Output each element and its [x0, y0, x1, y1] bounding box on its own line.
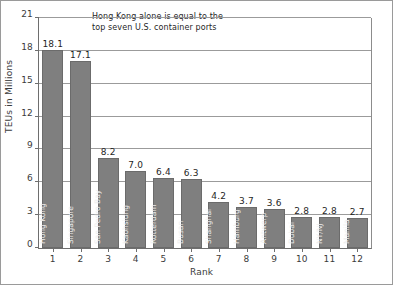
bar: Manila	[347, 218, 368, 248]
y-tick-label: 12	[21, 108, 33, 118]
x-tick-mark	[164, 248, 165, 252]
bar-category-label: Hamburg	[232, 209, 242, 244]
x-tick-label: 10	[296, 254, 308, 264]
y-tick-label: 9	[27, 140, 33, 150]
x-tick-label: 7	[216, 254, 222, 264]
bar: Rotterdam	[153, 178, 174, 248]
x-tick-label: 4	[133, 254, 139, 264]
x-tick-label: 5	[161, 254, 167, 264]
y-tick-mark	[35, 148, 39, 149]
y-tick-mark	[35, 17, 39, 18]
x-tick-label: 2	[78, 254, 84, 264]
y-tick-label: 6	[27, 173, 33, 183]
bar: San Pedro Bay	[98, 158, 119, 248]
x-tick-mark	[108, 248, 109, 252]
y-tick-label: 3	[27, 206, 33, 216]
bar-value-label: 18.1	[33, 39, 73, 49]
bar: NY/NJ	[319, 217, 340, 248]
bar-value-label: 6.3	[171, 168, 211, 178]
x-tick-label: 9	[271, 254, 277, 264]
y-tick-label: 21	[21, 9, 33, 19]
x-tick-mark	[136, 248, 137, 252]
x-tick-mark	[330, 248, 331, 252]
bar-category-label: Antwerp	[259, 213, 269, 244]
bar-category-label: Hong Kong	[38, 203, 48, 244]
x-tick-mark	[219, 248, 220, 252]
bar-value-label: 17.1	[61, 50, 101, 60]
bar: Hong Kong	[42, 50, 63, 248]
plot-area: 036912151821 Hong Kong18.1Singapore17.1S…	[38, 18, 372, 249]
x-tick-label: 1	[50, 254, 56, 264]
x-tick-label: 6	[188, 254, 194, 264]
bar-category-label: Singapore	[66, 206, 76, 244]
y-tick-mark	[35, 116, 39, 117]
y-tick-mark	[35, 83, 39, 84]
x-tick-label: 8	[244, 254, 250, 264]
gridline	[39, 17, 371, 18]
bar: Kaohsiung	[125, 171, 146, 248]
bar-value-label: 2.7	[337, 207, 377, 217]
bar-category-label: Manila	[342, 219, 352, 244]
bar-category-label: Rotterdam	[149, 204, 159, 244]
x-tick-mark	[247, 248, 248, 252]
y-axis-title: TEUs in Millions	[4, 60, 14, 133]
bar: Dubai	[291, 217, 312, 248]
x-tick-label: 3	[105, 254, 111, 264]
bar: Hamburg	[236, 207, 257, 248]
y-tick-mark	[35, 50, 39, 51]
bar-category-label: San Pedro Bay	[93, 190, 103, 244]
y-tick-mark	[35, 181, 39, 182]
x-axis-title: Rank	[190, 267, 213, 277]
bar: Shanghai	[208, 202, 229, 248]
x-tick-mark	[81, 248, 82, 252]
y-tick-label: 18	[21, 42, 33, 52]
y-tick-label: 0	[27, 239, 33, 249]
bar-value-label: 8.2	[88, 147, 128, 157]
bar: Busan	[181, 179, 202, 248]
y-tick-label: 15	[21, 75, 33, 85]
y-tick-mark	[35, 247, 39, 248]
bar-category-label: Dubai	[287, 222, 297, 244]
x-tick-mark	[274, 248, 275, 252]
container-port-bar-chart: Hong Kong alone is equal to the top seve…	[0, 0, 394, 286]
bar-category-label: NY/NJ	[315, 223, 325, 244]
x-tick-mark	[53, 248, 54, 252]
x-tick-mark	[302, 248, 303, 252]
x-tick-label: 12	[351, 254, 363, 264]
bar-category-label: Kaohsiung	[121, 205, 131, 244]
x-tick-label: 11	[324, 254, 336, 264]
bar-category-label: Busan	[176, 221, 186, 244]
x-tick-mark	[191, 248, 192, 252]
x-tick-mark	[357, 248, 358, 252]
bar-category-label: Shanghai	[204, 209, 214, 244]
